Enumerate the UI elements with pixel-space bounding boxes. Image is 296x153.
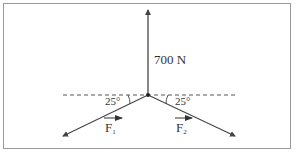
left-angle-label: 25° xyxy=(105,95,120,107)
right-angle-arc xyxy=(166,95,168,104)
f1-label: F1 xyxy=(105,120,116,136)
force-diagram: 700 N 25° 25° F1 F2 xyxy=(0,0,296,153)
right-angle-label: 25° xyxy=(175,95,190,107)
right-force-arrow xyxy=(148,95,235,136)
center-point xyxy=(146,93,150,97)
vertical-force-label: 700 N xyxy=(154,52,187,67)
left-angle-arc xyxy=(128,95,130,104)
f2-label: F2 xyxy=(176,120,187,136)
